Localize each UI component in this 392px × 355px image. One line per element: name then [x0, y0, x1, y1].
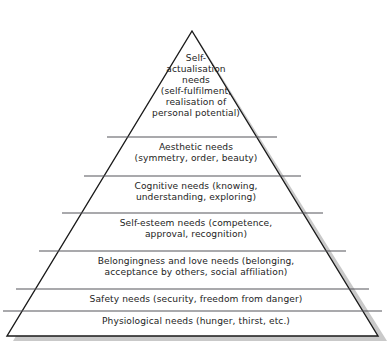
pyramid-level-cognitive-needs: Cognitive needs (knowing, understanding,… — [62, 181, 330, 203]
pyramid-level-physiological-needs: Physiological needs (hunger, thirst, etc… — [14, 316, 378, 327]
pyramid-level-self-esteem-needs: Self-esteem needs (competence, approval,… — [48, 218, 344, 240]
maslow-pyramid-figure: Self- actualisation needs (self-fulfilme… — [0, 0, 392, 355]
pyramid-level-self-actualisation-needs: Self- actualisation needs (self-fulfilme… — [96, 53, 296, 120]
pyramid-level-safety-needs: Safety needs (security, freedom from dan… — [24, 294, 368, 305]
pyramid-level-aesthetic-needs: Aesthetic needs (symmetry, order, beauty… — [76, 142, 316, 164]
pyramid-level-belongingness-and-love-needs: Belongingness and love needs (belonging,… — [34, 256, 358, 278]
